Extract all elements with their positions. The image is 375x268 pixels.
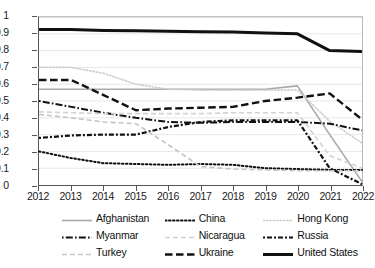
series-layer [39, 17, 362, 185]
legend-label: Nicaragua [199, 229, 245, 241]
x-tick-label: 2022 [343, 190, 375, 202]
legend-label: China [199, 212, 225, 224]
series-line-russia [39, 120, 362, 184]
y-tick-label: 0.1 [0, 163, 9, 173]
y-tick-mark [32, 118, 37, 119]
legend-item-afghanistan[interactable]: Afghanistan [62, 212, 165, 224]
y-tick-label: 0.2 [0, 146, 9, 156]
y-tick-mark [32, 33, 37, 34]
legend-row: MyanmarNicaraguaRussia [62, 226, 362, 243]
legend-item-nicaragua[interactable]: Nicaragua [165, 229, 264, 241]
legend-item-turkey[interactable]: Turkey [62, 246, 165, 258]
legend-swatch-icon [165, 229, 195, 240]
legend-swatch-icon [62, 212, 92, 223]
x-tick-mark [266, 186, 267, 191]
y-tick-label: 0 [0, 180, 9, 190]
x-tick-mark [168, 186, 169, 191]
legend-label: Turkey [96, 246, 127, 258]
x-tick-mark [71, 186, 72, 191]
y-tick-mark [32, 152, 37, 153]
y-tick-mark [32, 84, 37, 85]
y-tick-label: 0.7 [0, 61, 9, 71]
y-tick-mark [32, 186, 37, 187]
x-tick-mark [201, 186, 202, 191]
legend-label: Ukraine [199, 246, 234, 258]
legend-swatch-icon [165, 212, 195, 223]
x-tick-mark [136, 186, 137, 191]
x-tick-mark [298, 186, 299, 191]
series-line-united-states [39, 30, 362, 52]
legend-label: Hong Kong [297, 212, 348, 224]
legend-swatch-icon [165, 246, 195, 257]
y-tick-label: 0.8 [0, 44, 9, 54]
legend-item-ukraine[interactable]: Ukraine [165, 246, 264, 258]
legend-item-china[interactable]: China [165, 212, 264, 224]
legend-swatch-icon [62, 246, 92, 257]
series-line-china [39, 151, 362, 169]
x-tick-mark [331, 186, 332, 191]
legend-row: TurkeyUkraineUnited States [62, 243, 362, 260]
y-tick-mark [32, 16, 37, 17]
legend-item-myanmar[interactable]: Myanmar [62, 229, 165, 241]
legend-label: Myanmar [96, 229, 138, 241]
legend-item-united-states[interactable]: United States [263, 246, 362, 258]
y-tick-label: 0.3 [0, 129, 9, 139]
legend-row: AfghanistanChinaHong Kong [62, 209, 362, 226]
legend-label: United States [297, 246, 357, 258]
y-tick-label: 1 [0, 10, 9, 20]
y-tick-mark [32, 169, 37, 170]
y-tick-mark [32, 101, 37, 102]
x-tick-mark [103, 186, 104, 191]
y-tick-label: 0.9 [0, 27, 9, 37]
y-tick-mark [32, 135, 37, 136]
legend-item-hong-kong[interactable]: Hong Kong [263, 212, 362, 224]
y-tick-mark [32, 67, 37, 68]
series-line-hong-kong [39, 67, 362, 143]
legend-label: Russia [297, 229, 328, 241]
x-tick-mark [233, 186, 234, 191]
legend-label: Afghanistan [96, 212, 149, 224]
y-tick-label: 0.5 [0, 95, 9, 105]
line-chart: 00.10.20.30.40.50.60.70.80.91 2012201320… [0, 0, 375, 268]
chart-legend: AfghanistanChinaHong KongMyanmarNicaragu… [62, 209, 362, 260]
legend-swatch-icon [263, 212, 293, 223]
y-tick-label: 0.4 [0, 112, 9, 122]
x-tick-mark [363, 186, 364, 191]
legend-swatch-icon [263, 246, 293, 257]
legend-item-russia[interactable]: Russia [263, 229, 362, 241]
x-tick-mark [38, 186, 39, 191]
legend-swatch-icon [263, 229, 293, 240]
y-tick-mark [32, 50, 37, 51]
legend-swatch-icon [62, 229, 92, 240]
y-tick-label: 0.6 [0, 78, 9, 88]
plot-area [38, 16, 363, 186]
